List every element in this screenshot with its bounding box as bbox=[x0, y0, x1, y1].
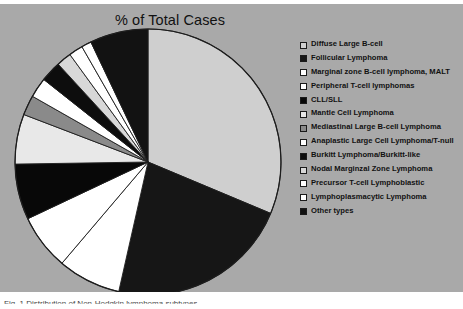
legend-swatch-icon bbox=[300, 97, 307, 104]
legend-item[interactable]: Marginal zone B-cell lymphoma, MALT bbox=[300, 68, 460, 77]
legend-item-label: Mantle Cell Lymphoma bbox=[311, 109, 394, 118]
legend-swatch-icon bbox=[300, 194, 307, 201]
figure-caption-text: Fig. 1 Distribution of Non-Hodgkin lymph… bbox=[4, 299, 197, 308]
legend-item[interactable]: Mantle Cell Lymphoma bbox=[300, 109, 460, 118]
legend-item[interactable]: Follicular Lymphoma bbox=[300, 54, 460, 63]
legend-swatch-icon bbox=[300, 83, 307, 90]
legend-item[interactable]: Peripheral T-cell lymphomas bbox=[300, 82, 460, 91]
legend-swatch-icon bbox=[300, 208, 307, 215]
pie-slice-group bbox=[15, 29, 281, 292]
legend-item-label: Anaplastic Large Cell Lymphoma/T-null bbox=[311, 137, 454, 146]
legend-item[interactable]: Lymphoplasmacytic Lymphoma bbox=[300, 193, 460, 202]
legend-swatch-icon bbox=[300, 69, 307, 76]
legend-swatch-icon bbox=[300, 55, 307, 62]
legend-item[interactable]: Diffuse Large B-cell bbox=[300, 40, 460, 49]
legend-item-label: Other types bbox=[311, 207, 353, 216]
legend-item-label: Marginal zone B-cell lymphoma, MALT bbox=[311, 68, 450, 77]
legend-swatch-icon bbox=[300, 180, 307, 187]
legend-swatch-icon bbox=[300, 153, 307, 160]
pie-chart-svg bbox=[12, 26, 284, 292]
figure-root: % of Total Cases Diffuse Large B-cellFol… bbox=[0, 0, 463, 309]
legend-item[interactable]: Other types bbox=[300, 207, 460, 216]
legend-item-label: Mediastinal Large B-cell Lymphoma bbox=[311, 123, 441, 132]
legend-swatch-icon bbox=[300, 139, 307, 146]
legend-item[interactable]: CLL/SLL bbox=[300, 96, 460, 105]
legend-item-label: Burkitt Lymphoma/Burkitt-like bbox=[311, 151, 420, 160]
legend-item-label: Nodal Marginzal Zone Lymphoma bbox=[311, 165, 432, 174]
legend-item-label: Peripheral T-cell lymphomas bbox=[311, 82, 415, 91]
pie-chart bbox=[12, 26, 284, 292]
legend-item[interactable]: Mediastinal Large B-cell Lymphoma bbox=[300, 123, 460, 132]
legend-swatch-icon bbox=[300, 167, 307, 174]
figure-caption-strip: Fig. 1 Distribution of Non-Hodgkin lymph… bbox=[0, 296, 463, 309]
legend-item[interactable]: Anaplastic Large Cell Lymphoma/T-null bbox=[300, 137, 460, 146]
chart-legend: Diffuse Large B-cellFollicular LymphomaM… bbox=[300, 40, 460, 221]
chart-panel: % of Total Cases Diffuse Large B-cellFol… bbox=[0, 4, 463, 292]
legend-item-label: Lymphoplasmacytic Lymphoma bbox=[311, 193, 427, 202]
legend-item[interactable]: Burkitt Lymphoma/Burkitt-like bbox=[300, 151, 460, 160]
legend-item-label: Precursor T-cell Lymphoblastic bbox=[311, 179, 424, 188]
legend-item-label: CLL/SLL bbox=[311, 96, 342, 105]
legend-item-label: Follicular Lymphoma bbox=[311, 54, 387, 63]
legend-item[interactable]: Nodal Marginzal Zone Lymphoma bbox=[300, 165, 460, 174]
legend-item[interactable]: Precursor T-cell Lymphoblastic bbox=[300, 179, 460, 188]
legend-swatch-icon bbox=[300, 125, 307, 132]
legend-swatch-icon bbox=[300, 111, 307, 118]
legend-swatch-icon bbox=[300, 42, 307, 49]
legend-item-label: Diffuse Large B-cell bbox=[311, 40, 383, 49]
